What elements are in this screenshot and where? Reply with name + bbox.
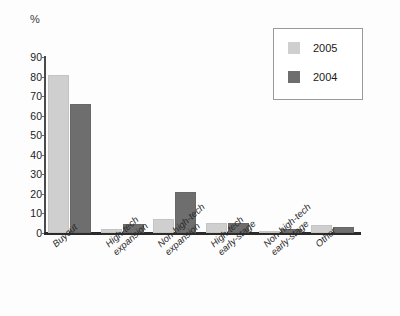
legend-swatch-2005	[288, 42, 300, 54]
y-tick-label-40: 40	[0, 149, 42, 161]
legend-swatch-2004	[288, 71, 300, 83]
bar-chart-figure: % 0102030405060708090 BuyoutHigh-tech ex…	[0, 0, 400, 316]
y-tick-label-70: 70	[0, 90, 42, 102]
legend-entry-2004: 2004	[288, 71, 337, 83]
legend-label-2004: 2004	[313, 71, 337, 83]
y-tick-label-20: 20	[0, 188, 42, 200]
y-tick-label-60: 60	[0, 110, 42, 122]
y-tick-label-50: 50	[0, 129, 42, 141]
bar-2005-buyout	[48, 75, 69, 233]
y-tick-label-30: 30	[0, 168, 42, 180]
y-tick-label-10: 10	[0, 207, 42, 219]
y-tick-label-90: 90	[0, 51, 42, 63]
legend-label-2005: 2005	[313, 42, 337, 54]
legend-entry-2005: 2005	[288, 42, 337, 54]
chart-legend: 2005 2004	[273, 28, 363, 100]
y-tick-label-0: 0	[0, 227, 42, 239]
x-axis-category-labels: BuyoutHigh-tech expansionNon-high-tech e…	[44, 237, 360, 316]
y-tick-label-80: 80	[0, 71, 42, 83]
y-axis-tick-labels: 0102030405060708090	[0, 0, 42, 316]
